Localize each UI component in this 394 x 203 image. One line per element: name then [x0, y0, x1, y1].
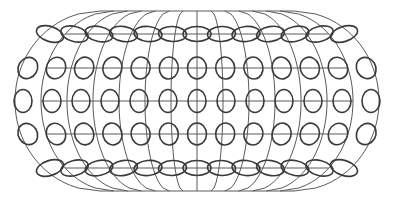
- graticule: [15, 11, 379, 191]
- projection-canvas: [0, 0, 394, 203]
- tissot-ellipse: [362, 90, 380, 113]
- tissot-ellipse: [14, 90, 32, 113]
- projection-diagram: [0, 0, 394, 203]
